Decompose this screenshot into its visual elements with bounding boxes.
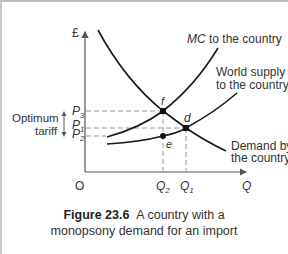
double-arrow-icon <box>62 111 67 137</box>
quantity-label-q1: Q1 <box>180 179 194 195</box>
demand-curve <box>98 30 226 151</box>
figure-caption: Figure 23.6 A country with a monopsony d… <box>0 207 288 239</box>
figure-number: Figure 23.6 <box>63 208 129 222</box>
optimum-tariff-line1: Optimum <box>12 112 59 124</box>
x-axis-label: Q <box>242 179 251 193</box>
supply-curve-label-line2: to the country <box>216 78 288 92</box>
y-axis-label: £ <box>72 26 79 40</box>
caption-line1: A country with a <box>136 208 224 222</box>
caption-line2: monopsony demand for an import <box>0 223 288 239</box>
label-d: d <box>184 111 191 125</box>
point-f <box>160 108 166 114</box>
supply-curve-label-line1: World supply <box>216 65 285 79</box>
demand-curve-label-line2: the country <box>231 151 288 165</box>
label-f: f <box>161 95 165 107</box>
svg-text:Q2: Q2 <box>156 179 170 195</box>
mc-curve-label: MC to the country <box>187 32 282 46</box>
label-e: e <box>166 138 172 150</box>
optimum-tariff-line2: tariff <box>35 125 58 137</box>
origin-label: O <box>75 179 84 193</box>
point-d <box>183 125 189 131</box>
svg-text:Q1: Q1 <box>180 179 194 195</box>
quantity-label-q2: Q2 <box>156 179 170 195</box>
